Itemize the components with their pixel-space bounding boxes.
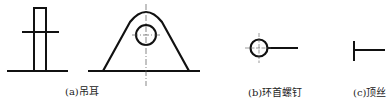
- caption-c: (c)顶丝: [353, 84, 386, 99]
- eye-bolt-symbol: [245, 33, 298, 63]
- lifting-lug-side-view: [7, 8, 68, 71]
- lifting-lug-front-view: [88, 4, 200, 86]
- caption-b: (b)环首螺钉: [248, 84, 302, 99]
- jack-screw-symbol: [354, 41, 385, 61]
- caption-a: (a)吊耳: [65, 83, 99, 98]
- diagram-canvas: [0, 0, 391, 105]
